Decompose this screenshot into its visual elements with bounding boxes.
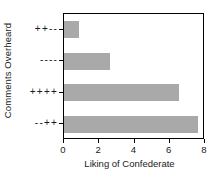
bar: [64, 116, 198, 133]
y-axis-tick-labels: ++------++++--++: [16, 13, 61, 139]
y-axis-tick-label: ++--: [35, 23, 58, 35]
y-axis-title: Comments Overheard: [0, 0, 16, 140]
x-axis-tick-label: 0: [53, 144, 73, 155]
x-axis-tick-label: 8: [194, 144, 214, 155]
y-axis-tick-label: ----: [40, 54, 58, 66]
x-axis-tick-mark: [204, 139, 205, 143]
x-axis-tick-label: 6: [159, 144, 179, 155]
y-axis-tick-label: ++++: [30, 86, 58, 98]
y-axis-tick-mark: [59, 92, 63, 93]
x-axis-tick-mark: [63, 139, 64, 143]
bar: [64, 21, 79, 38]
x-axis-tick-label: 2: [88, 144, 108, 155]
y-axis-tick-label: --++: [35, 117, 58, 129]
y-axis-tick-mark: [59, 60, 63, 61]
x-axis-title: Liking of Confederate: [40, 158, 219, 169]
y-axis-tick-mark: [59, 29, 63, 30]
x-axis-tick-mark: [98, 139, 99, 143]
y-axis-tick-mark: [59, 123, 63, 124]
bar: [64, 84, 179, 101]
x-axis-tick-label: 4: [124, 144, 144, 155]
y-axis-title-text: Comments Overheard: [3, 22, 14, 117]
bar: [64, 53, 110, 70]
bar-chart-figure: Comments Overheard ++------++++--++ 0246…: [0, 0, 219, 175]
x-axis-tick-mark: [169, 139, 170, 143]
x-axis-tick-mark: [134, 139, 135, 143]
plot-area: [63, 13, 204, 139]
